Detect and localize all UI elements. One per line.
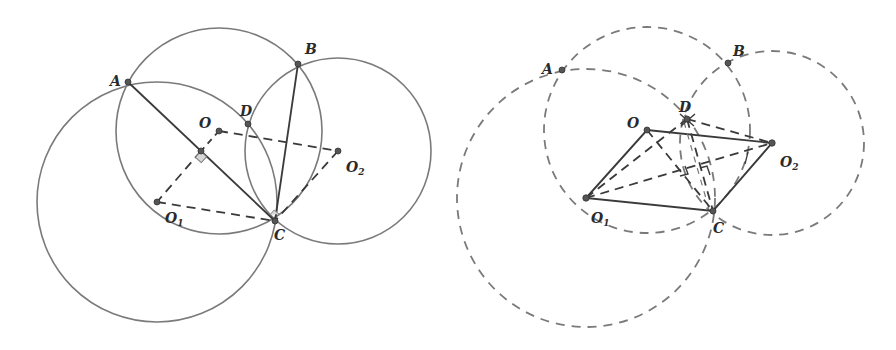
right-point-b xyxy=(725,60,731,66)
left-point-c xyxy=(272,218,278,224)
left-point-a xyxy=(125,79,131,85)
right-point-o xyxy=(644,127,650,133)
left-label-c: C xyxy=(274,227,285,243)
left-label-o1: O1 xyxy=(165,210,183,228)
right-label-o2-main: O xyxy=(780,154,793,170)
right-point-o2 xyxy=(769,140,775,146)
geometry-diagram: A B C D O O1 O2 xyxy=(0,0,896,350)
left-label-o1-main: O xyxy=(165,210,178,226)
right-label-o1: O1 xyxy=(591,210,609,228)
right-label-a: A xyxy=(540,61,553,77)
right-label-c: C xyxy=(713,220,724,236)
left-point-b xyxy=(295,61,301,67)
left-dashed-o-m xyxy=(201,131,219,151)
right-dashed-d-c xyxy=(687,119,713,211)
left-point-o xyxy=(216,128,222,134)
left-point-midpoint xyxy=(198,148,204,154)
right-label-o2: O2 xyxy=(780,154,798,172)
right-label-o1-sub: 1 xyxy=(603,218,609,228)
right-label-o1-main: O xyxy=(591,210,604,226)
left-label-o: O xyxy=(199,115,212,131)
left-point-d xyxy=(245,121,251,127)
right-point-a xyxy=(559,67,565,73)
left-point-o2 xyxy=(335,148,341,154)
right-point-d xyxy=(684,116,690,122)
right-label-b: B xyxy=(732,43,745,59)
left-dashed-m-o1 xyxy=(157,151,201,202)
right-label-o2-sub: 2 xyxy=(791,162,798,172)
left-right-angle-mark-c xyxy=(270,210,279,215)
left-label-b: B xyxy=(304,41,317,57)
right-label-d: D xyxy=(678,99,692,115)
left-label-d: D xyxy=(239,103,253,119)
right-figure: A B C D O O1 O2 xyxy=(457,27,864,327)
left-points xyxy=(125,61,341,224)
left-label-o2-main: O xyxy=(346,159,359,175)
left-label-a: A xyxy=(108,73,121,89)
right-point-o1 xyxy=(583,195,589,201)
left-figure: A B C D O O1 O2 xyxy=(37,28,431,322)
left-label-o1-sub: 1 xyxy=(177,218,183,228)
left-label-o2: O2 xyxy=(346,159,364,177)
right-label-o: O xyxy=(627,115,640,131)
left-label-o2-sub: 2 xyxy=(357,167,364,177)
left-point-o1 xyxy=(154,199,160,205)
right-point-c xyxy=(710,208,716,214)
